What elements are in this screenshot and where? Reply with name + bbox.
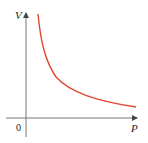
chart-svg: V 0 P	[0, 0, 148, 143]
data-curve	[38, 14, 136, 107]
origin-label: 0	[16, 122, 21, 133]
x-axis-label: P	[130, 122, 138, 134]
y-axis-label: V	[15, 9, 23, 21]
